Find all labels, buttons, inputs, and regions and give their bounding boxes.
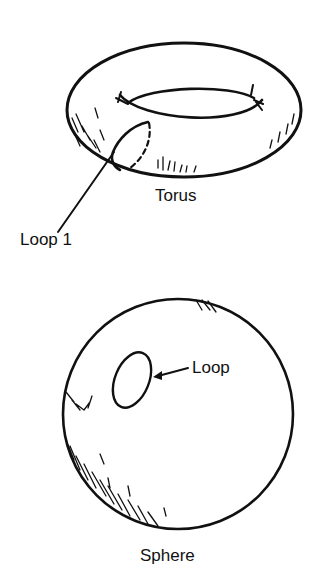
sphere-figure — [63, 299, 293, 529]
loop1-label: Loop 1 — [20, 230, 72, 249]
torus-loop-front — [112, 122, 148, 170]
loop-leader-line — [158, 368, 188, 376]
torus-outer-outline — [67, 43, 301, 177]
loop-arrowhead-icon — [153, 371, 162, 380]
torus-hole-upper-edge — [128, 89, 254, 103]
loop1-leader-line — [58, 152, 114, 232]
sphere-loop — [105, 347, 158, 414]
topology-diagram: Torus Loop 1 Loop Sphere — [0, 0, 317, 587]
sphere-shading — [66, 300, 216, 526]
loop-label: Loop — [192, 358, 230, 377]
sphere-label: Sphere — [140, 546, 195, 565]
torus-hole-lower-edge — [120, 95, 262, 118]
sphere-outline — [63, 299, 293, 529]
torus-label: Torus — [155, 186, 197, 205]
